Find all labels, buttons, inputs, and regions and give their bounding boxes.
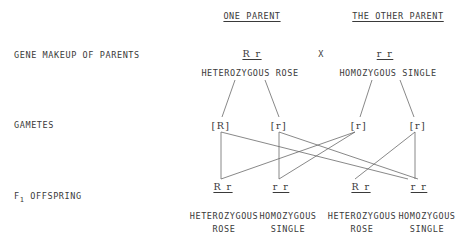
row-label-gene-makeup: GENE MAKEUP OF PARENTS: [14, 51, 140, 60]
gamete-1: [R]: [211, 121, 230, 131]
gamete-4: [r]: [410, 121, 426, 131]
offspring-1-line1: HETEROZYGOUS: [190, 212, 259, 221]
gamete-2: [r]: [271, 121, 287, 131]
offspring-4-line2: SINGLE: [410, 225, 444, 234]
parent-one-genotype: R r: [242, 49, 261, 59]
parent-one-description: HETEROZYGOUS ROSE: [201, 69, 298, 78]
cross-symbol: X: [318, 50, 324, 59]
gamete-3: [r]: [351, 121, 367, 131]
header-other-parent: THE OTHER PARENT: [352, 12, 443, 21]
header-one-parent: ONE PARENT: [223, 12, 280, 21]
row-label-offspring: F1 OFFSPRING: [14, 192, 82, 204]
offspring-2-genotype: r r: [273, 182, 290, 192]
offspring-3-line2: ROSE: [351, 225, 374, 234]
row-label-gametes: GAMETES: [14, 121, 54, 130]
offspring-3-line1: HETEROZYGOUS: [328, 212, 397, 221]
parent-other-description: HOMOZYGOUS SINGLE: [339, 69, 436, 78]
offspring-2-line2: SINGLE: [271, 225, 305, 234]
offspring-1-line2: ROSE: [213, 225, 236, 234]
offspring-4-line1: HOMOZYGOUS: [398, 212, 455, 221]
connection-lines: [0, 0, 469, 243]
offspring-4-genotype: r r: [411, 182, 428, 192]
offspring-3-genotype: R r: [351, 182, 370, 192]
offspring-2-line1: HOMOZYGOUS: [259, 212, 316, 221]
offspring-1-genotype: R r: [213, 182, 232, 192]
parent-other-genotype: r r: [377, 49, 394, 59]
